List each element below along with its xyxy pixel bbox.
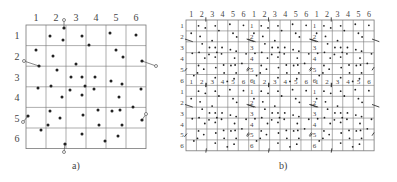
particle-dot xyxy=(292,89,294,91)
particle-dot xyxy=(233,143,235,145)
particle-dot xyxy=(122,56,125,59)
particle-dot xyxy=(349,72,351,74)
particle-dot xyxy=(62,39,65,42)
tile-row-label: 4 xyxy=(250,55,254,63)
particle-dot xyxy=(235,50,237,52)
tile-row-label: 2 xyxy=(250,99,254,107)
col-label: 1 xyxy=(189,10,193,19)
col-label: 5 xyxy=(114,12,119,23)
particle-dot xyxy=(286,137,288,139)
particle-dot xyxy=(340,47,342,49)
particle-dot xyxy=(352,80,354,82)
particle-dot xyxy=(283,118,285,120)
tile-col-label: 2 xyxy=(263,78,267,86)
particle-dot xyxy=(218,95,220,97)
image-particle xyxy=(145,113,148,116)
col-label: 2 xyxy=(54,12,59,23)
particle-dot xyxy=(121,124,124,127)
particle-dot xyxy=(274,40,276,42)
tile-row-label: 5 xyxy=(313,131,317,139)
boundary-link xyxy=(142,61,156,66)
particle-dot xyxy=(235,72,237,74)
image-particle xyxy=(63,19,66,22)
tile-col-label: 2 xyxy=(200,78,204,86)
particle-dot xyxy=(283,53,285,55)
particle-dot xyxy=(35,49,38,52)
tile-row-label: 1 xyxy=(250,88,254,96)
row-label: 6 xyxy=(15,133,20,144)
particle-dot xyxy=(340,77,342,79)
particle-dot xyxy=(223,129,225,131)
particle-dot xyxy=(203,68,205,70)
particle-dot xyxy=(271,119,273,121)
particle-dot xyxy=(218,30,220,32)
tile-row-label: 4 xyxy=(313,121,317,129)
particle-dot xyxy=(298,72,300,74)
particle-dot xyxy=(277,47,279,49)
particle-dot xyxy=(234,57,236,59)
particle-dot xyxy=(260,25,262,27)
particle-dot xyxy=(230,65,232,67)
particle-dot xyxy=(266,68,268,70)
particle-dot xyxy=(254,118,256,120)
particle-dot xyxy=(94,76,97,79)
particle-dot xyxy=(354,23,356,25)
particle-dot xyxy=(199,101,201,103)
tile-col-label: 3 xyxy=(210,78,214,86)
col-label: 6 xyxy=(367,10,371,19)
particle-dot xyxy=(37,87,40,90)
col-label: 3 xyxy=(273,10,277,19)
col-label: 4 xyxy=(283,10,287,19)
particle-dot xyxy=(115,49,118,52)
particle-dot xyxy=(355,49,357,51)
particle-dot xyxy=(281,95,283,97)
particle-dot xyxy=(235,137,237,139)
col-label: 3 xyxy=(74,12,79,23)
particle-dot xyxy=(292,49,294,51)
particle-dot xyxy=(279,51,281,53)
tile-row-label: 6 xyxy=(313,142,317,150)
col-label: 6 xyxy=(304,10,308,19)
particle-dot xyxy=(340,132,342,134)
particle-dot xyxy=(297,64,299,66)
particle-dot xyxy=(277,77,279,79)
particle-dot xyxy=(211,40,213,42)
col-label: 6 xyxy=(241,10,245,19)
tile-col-label: 3 xyxy=(273,78,277,86)
particle-dot xyxy=(245,118,247,120)
particle-dot xyxy=(208,53,210,55)
particle-dot xyxy=(266,134,268,136)
row-label: 4 xyxy=(180,55,184,63)
particle-dot xyxy=(40,129,43,132)
particle-dot xyxy=(243,24,245,26)
particle-dot xyxy=(201,43,203,45)
particle-dot xyxy=(234,129,236,131)
particle-dot xyxy=(318,140,320,142)
particle-dot xyxy=(340,90,342,92)
particle-dot xyxy=(340,67,342,69)
row-label: 5 xyxy=(180,131,184,139)
particle-dot xyxy=(81,35,84,38)
particle-dot xyxy=(295,32,297,34)
row-label: 2 xyxy=(180,33,184,41)
col-label: 4 xyxy=(221,10,225,19)
particle-dot xyxy=(204,92,206,94)
particle-dot xyxy=(235,116,237,118)
particle-dot xyxy=(241,62,243,64)
tile-col-label: 6 xyxy=(367,78,371,86)
particle-dot xyxy=(337,40,339,42)
particle-dot xyxy=(191,118,193,120)
particle-dot xyxy=(82,114,85,117)
particle-dot xyxy=(49,110,52,113)
particle-dot xyxy=(221,47,223,49)
particle-dot xyxy=(358,32,360,34)
particle-dot xyxy=(340,112,342,114)
particle-dot xyxy=(298,101,300,103)
particle-dot xyxy=(236,101,238,103)
tile-col-label: 1 xyxy=(189,78,193,86)
tile-row-label: 1 xyxy=(313,88,317,96)
particle-dot xyxy=(121,83,124,86)
tile-col-label: 1 xyxy=(315,78,319,86)
particle-dot xyxy=(286,72,288,74)
particle-dot xyxy=(221,53,223,55)
